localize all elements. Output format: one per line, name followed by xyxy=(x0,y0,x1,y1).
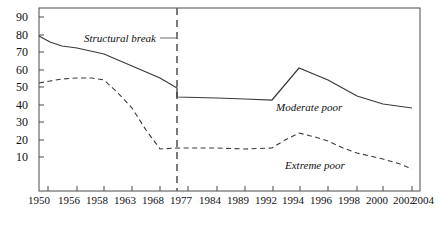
y-tick-label-50: 50 xyxy=(2,81,28,93)
series-moderate-poor xyxy=(39,36,412,108)
x-tick-label-2004: 2004 xyxy=(382,195,439,206)
y-tick-label-30: 30 xyxy=(2,116,28,128)
structural-break-label: Structural break xyxy=(84,32,156,44)
moderate-poor-label: Moderate poor xyxy=(276,101,342,113)
y-tick-label-60: 60 xyxy=(2,64,28,76)
y-tick-label-70: 70 xyxy=(2,46,28,58)
y-tick-label-40: 40 xyxy=(2,99,28,111)
x-axis-ticks xyxy=(48,186,412,191)
y-tick-label-10: 10 xyxy=(2,151,28,163)
y-tick-label-20: 20 xyxy=(2,134,28,146)
extreme-poor-label: Extreme poor xyxy=(285,159,345,171)
y-tick-label-90: 90 xyxy=(2,11,28,23)
y-tick-label-80: 80 xyxy=(2,29,28,41)
series-extreme-poor xyxy=(39,78,412,169)
